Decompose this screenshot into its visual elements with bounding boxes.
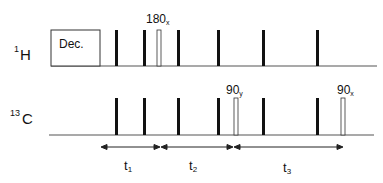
pulse-sequence-diagram: 1 H Dec. 180x 13 C 90y 90x xyxy=(0,0,383,183)
t1-arrow-left xyxy=(101,145,107,150)
h1-pulse-180x xyxy=(157,30,161,66)
c13-channel: 13 C 90y 90x xyxy=(10,83,374,135)
h1-channel: 1 H Dec. 180x xyxy=(14,12,377,66)
decoupling-label: Dec. xyxy=(59,37,84,51)
h1-iso-mass: 1 xyxy=(14,44,19,54)
c13-pulse-2 xyxy=(143,98,146,135)
delay-arrows xyxy=(101,145,343,150)
h1-pulse-2 xyxy=(143,30,146,66)
c13-nucleus: C xyxy=(22,110,33,127)
h1-pulse-6 xyxy=(316,30,319,66)
c13-iso-mass: 13 xyxy=(10,108,20,118)
t1-label: t1 xyxy=(124,158,133,174)
t3-label: t3 xyxy=(283,160,292,176)
c13-pulse-90x xyxy=(341,98,345,135)
t3-arrow-right xyxy=(337,145,343,150)
c13-pulse-90y xyxy=(234,98,238,135)
c13-pulse-3 xyxy=(177,98,180,135)
t2-label: t2 xyxy=(189,158,198,174)
h1-pulse-5 xyxy=(262,30,265,66)
c13-pulse-6 xyxy=(316,98,319,135)
h1-pulse-3 xyxy=(177,30,180,66)
t1-arrow-right xyxy=(154,145,160,150)
c13-pulse-90x-label: 90x xyxy=(337,83,354,97)
c13-pulse-1 xyxy=(115,98,118,135)
c13-pulse-4 xyxy=(217,98,220,135)
t2-arrow-left xyxy=(161,145,167,150)
c13-pulse-90y-label: 90y xyxy=(226,83,243,98)
c13-pulse-5 xyxy=(262,98,265,135)
h1-pulse-180x-label: 180x xyxy=(146,12,170,26)
h1-pulse-1 xyxy=(115,30,118,66)
t2-arrow-right xyxy=(227,145,233,150)
h1-nucleus: H xyxy=(20,46,31,63)
h1-pulse-4 xyxy=(217,30,220,66)
t3-arrow-left xyxy=(234,145,240,150)
